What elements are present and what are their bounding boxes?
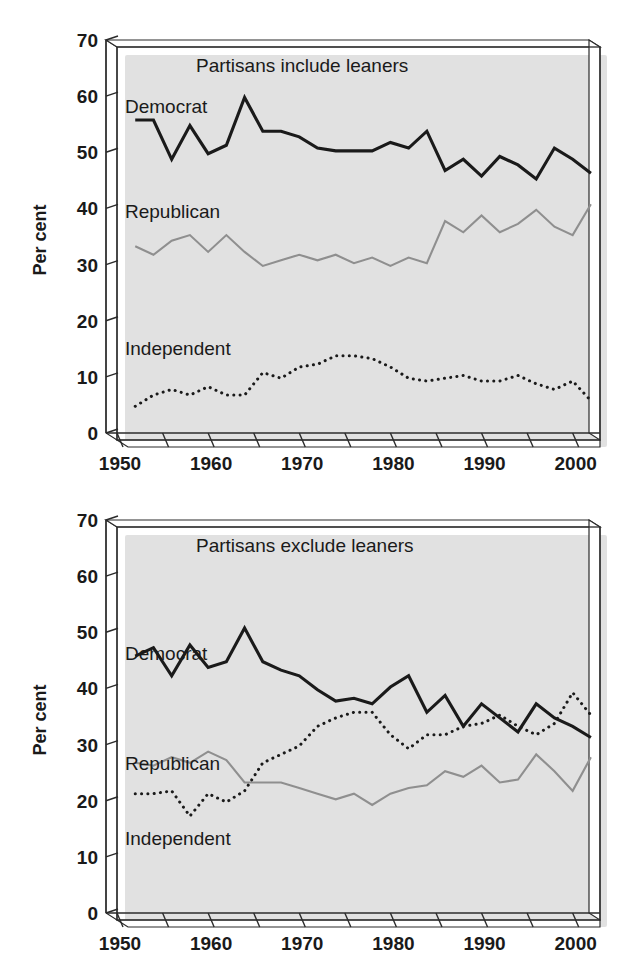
y-tick-label: 20: [77, 791, 98, 812]
x-tick-label: 1990: [463, 933, 505, 954]
x-tick-label: 1950: [99, 933, 141, 954]
y-tick-labels-bottom: 010203040506070: [77, 510, 98, 924]
x-tick-label: 1980: [372, 933, 414, 954]
x-tick-label: 1950: [99, 453, 141, 474]
y-tick-label: 10: [77, 367, 98, 388]
y-tick-label: 0: [87, 903, 98, 924]
y-tick-label: 70: [77, 510, 98, 531]
y-tick-labels-top: 010203040506070: [77, 30, 98, 444]
y-tick-label: 40: [77, 198, 98, 219]
x-tick-label: 1980: [372, 453, 414, 474]
y-tick-label: 10: [77, 847, 98, 868]
x-tick-label: 2000: [555, 933, 597, 954]
chart-svg-bottom: 010203040506070 195019601970198019902000…: [0, 480, 637, 960]
y-tick-label: 30: [77, 735, 98, 756]
x-tick-labels-bottom: 195019601970198019902000: [99, 933, 597, 954]
chart-title-bottom: Partisans exclude leaners: [196, 535, 414, 556]
y-tick-label: 20: [77, 311, 98, 332]
series-label-independent-top: Independent: [125, 338, 231, 359]
y-axis-label-top: Per cent: [30, 204, 50, 275]
y-tick-label: 40: [77, 678, 98, 699]
chart-svg-top: 010203040506070 195019601970198019902000…: [0, 0, 637, 480]
chart-panel-top: 010203040506070 195019601970198019902000…: [0, 0, 637, 480]
y-tick-label: 70: [77, 30, 98, 51]
x-tick-label: 1960: [190, 453, 232, 474]
y-axis-label-bottom: Per cent: [30, 684, 50, 755]
x-tick-label: 1970: [281, 453, 323, 474]
series-label-republican-top: Republican: [125, 201, 220, 222]
y-tick-label: 50: [77, 142, 98, 163]
y-tick-label: 60: [77, 86, 98, 107]
x-tick-label: 1990: [463, 453, 505, 474]
series-label-independent-bottom: Independent: [125, 828, 231, 849]
y-tick-label: 0: [87, 423, 98, 444]
x-tick-label: 2000: [555, 453, 597, 474]
x-tick-label: 1960: [190, 933, 232, 954]
series-label-republican-bottom: Republican: [125, 753, 220, 774]
y-tick-label: 30: [77, 255, 98, 276]
series-label-democrat-bottom: Democrat: [125, 643, 208, 664]
plot-shadow-bottom: [125, 535, 607, 927]
chart-title-top: Partisans include leaners: [196, 55, 408, 76]
x-tick-label: 1970: [281, 933, 323, 954]
series-label-democrat-top: Democrat: [125, 96, 208, 117]
x-tick-labels-top: 195019601970198019902000: [99, 453, 597, 474]
y-tick-label: 60: [77, 566, 98, 587]
chart-panel-bottom: 010203040506070 195019601970198019902000…: [0, 480, 637, 960]
y-tick-label: 50: [77, 622, 98, 643]
figure-root: 010203040506070 195019601970198019902000…: [0, 0, 637, 971]
